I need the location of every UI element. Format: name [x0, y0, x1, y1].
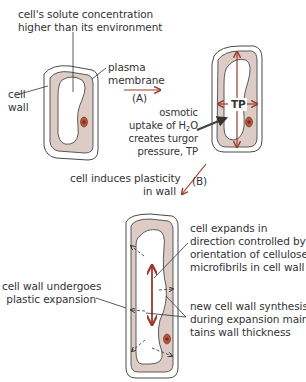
synthesis-label: new cell wall synthesis during expansion… — [190, 300, 306, 339]
plasticity-label-line1: cell induces plasticity — [70, 172, 176, 185]
plasticity-label-line2: in wall — [70, 185, 176, 198]
wall-expansion-label-line1: cell wall undergoes — [2, 280, 96, 293]
wall-expansion-label-line2: plastic expansion — [2, 293, 96, 306]
osmotic-label-line2: uptake of H2O — [118, 119, 198, 132]
synthesis-label-line1: new cell wall synthesis — [190, 300, 306, 313]
osmotic-label: osmotic uptake of H2O creates turgor pre… — [118, 106, 198, 158]
osmotic-label-line3: creates turgor — [118, 132, 198, 145]
expands-label: cell expands in direction controlled by … — [190, 222, 306, 274]
expanding-cell — [126, 214, 178, 378]
osmotic-label-line4: pressure, TP — [118, 145, 198, 158]
expands-label-line4: microfibrils in cell wall — [190, 261, 306, 274]
expands-label-line1: cell expands in — [190, 222, 306, 235]
plasma-label-line2: membrane — [108, 74, 165, 87]
osmotic-label-line1: osmotic — [118, 106, 198, 119]
solute-label: cell's solute concentration higher than … — [18, 8, 130, 34]
expands-label-line3: orientation of cellulose — [190, 248, 306, 261]
cell-wall-label: cell wall — [8, 88, 28, 114]
step-b-label: (B) — [192, 175, 207, 188]
synthesis-label-line2: during expansion main- — [190, 313, 306, 326]
plasma-label-line1: plasma — [108, 61, 165, 74]
plasma-membrane-label: plasma membrane — [108, 61, 165, 87]
cell-wall-label-line1: cell — [8, 88, 28, 101]
step-a-label: (A) — [132, 92, 147, 105]
synthesis-label-line3: tains wall thickness — [190, 326, 306, 339]
wall-expansion-label: cell wall undergoes plastic expansion — [2, 280, 96, 306]
cell-wall-label-line2: wall — [8, 101, 28, 114]
solute-label-line2: higher than its environment — [18, 21, 130, 34]
expands-label-line2: direction controlled by — [190, 235, 306, 248]
plasticity-label: cell induces plasticity in wall — [70, 172, 176, 198]
tp-label: TP — [230, 98, 247, 111]
solute-label-line1: cell's solute concentration — [18, 8, 130, 21]
initial-cell — [44, 66, 98, 160]
